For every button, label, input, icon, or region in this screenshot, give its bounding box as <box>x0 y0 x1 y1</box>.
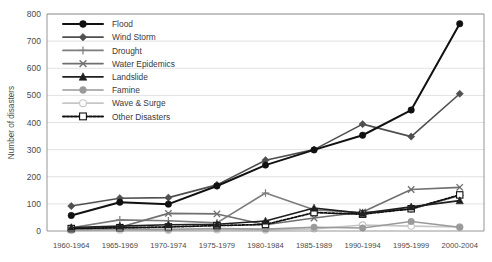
y-axis-title: Number of disasters <box>7 86 16 159</box>
y-tick-label: 100 <box>27 199 41 209</box>
x-tick-label: 2000-2004 <box>442 241 478 250</box>
gridlines <box>47 14 484 204</box>
data-point <box>262 189 270 197</box>
legend-marker-icon <box>79 33 87 41</box>
y-axis-tick-labels: 0100200300400500600700800 <box>27 9 41 236</box>
legend-item[interactable]: Water Epidemics <box>63 59 175 69</box>
data-point <box>359 132 365 138</box>
x-tick-label: 1975-1979 <box>199 241 235 250</box>
legend-item[interactable]: Other Disasters <box>63 112 170 122</box>
data-point <box>359 121 366 128</box>
data-point <box>214 183 220 189</box>
data-point <box>359 225 365 231</box>
line-chart: 0100200300400500600700800 1960-19641965-… <box>0 0 492 262</box>
x-tick-label: 1970-1974 <box>150 241 186 250</box>
data-point <box>408 218 414 224</box>
y-tick-label: 600 <box>27 63 41 73</box>
x-tick-label: 1980-1984 <box>247 241 283 250</box>
chart-legend: FloodWind StormDroughtWater EpidemicsLan… <box>63 19 175 121</box>
legend-label: Wind Storm <box>112 32 156 42</box>
y-tick-label: 700 <box>27 36 41 46</box>
data-point <box>262 162 268 168</box>
y-tick-label: 0 <box>36 226 41 236</box>
legend-label: Water Epidemics <box>112 59 175 69</box>
y-tick-label: 800 <box>27 9 41 19</box>
legend-item[interactable]: Famine <box>63 85 140 95</box>
x-tick-label: 1995-1999 <box>393 241 429 250</box>
data-point <box>311 147 317 153</box>
data-point <box>68 212 74 218</box>
data-point <box>117 199 123 205</box>
legend-item[interactable]: Wave & Surge <box>63 98 166 108</box>
data-point <box>408 107 414 113</box>
legend-item[interactable]: Drought <box>63 46 142 56</box>
data-point <box>311 224 317 230</box>
legend-label: Other Disasters <box>112 112 170 122</box>
legend-label: Wave & Surge <box>112 98 166 108</box>
legend-marker-icon <box>80 21 87 28</box>
legend-label: Flood <box>112 19 133 29</box>
data-point <box>165 194 172 201</box>
x-tick-label: 1985-1989 <box>296 241 332 250</box>
data-point <box>165 201 171 207</box>
legend-label: Famine <box>112 85 140 95</box>
legend-label: Drought <box>112 46 142 56</box>
y-tick-label: 400 <box>27 118 41 128</box>
legend-marker-icon <box>80 113 87 120</box>
x-axis-tick-labels: 1960-19641965-19691970-19741975-19791980… <box>53 241 478 250</box>
x-tick-label: 1960-1964 <box>53 241 89 250</box>
legend-marker-icon <box>80 87 87 94</box>
legend-marker-icon <box>79 46 87 54</box>
legend-marker-icon <box>80 100 87 107</box>
legend-item[interactable]: Landslide <box>63 72 148 82</box>
legend-item[interactable]: Flood <box>63 19 133 29</box>
x-tick-label: 1990-1994 <box>344 241 380 250</box>
y-axis-title-group: Number of disasters <box>7 86 16 159</box>
y-tick-label: 500 <box>27 90 41 100</box>
data-point <box>457 21 463 27</box>
y-tick-label: 300 <box>27 145 41 155</box>
x-tick-label: 1965-1969 <box>102 241 138 250</box>
legend-label: Landslide <box>112 72 148 82</box>
chart-container: 0100200300400500600700800 1960-19641965-… <box>0 0 492 262</box>
data-point <box>457 224 463 230</box>
y-tick-label: 200 <box>27 172 41 182</box>
